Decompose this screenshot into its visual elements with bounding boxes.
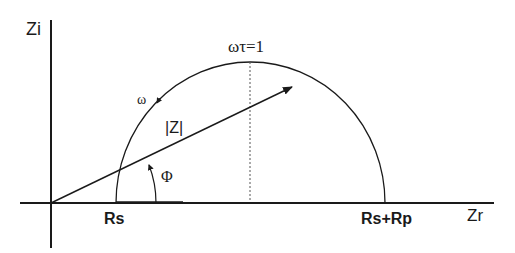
omega-tau-label: ωτ=1 — [228, 37, 264, 56]
magnitude-label: |Z| — [165, 119, 183, 136]
phase-label: Φ — [161, 168, 173, 185]
phase-angle-arc — [149, 165, 156, 203]
impedance-vector — [51, 87, 292, 203]
x-axis-label: Zr — [467, 206, 483, 225]
y-axis-label: Zi — [26, 19, 41, 39]
omega-label: ω — [137, 92, 146, 107]
rs-label: Rs — [104, 210, 125, 227]
nyquist-diagram: Zi Zr ωτ=1 ω |Z| Φ Rs Rs+Rp — [0, 0, 515, 253]
rs-rp-label: Rs+Rp — [361, 210, 412, 227]
